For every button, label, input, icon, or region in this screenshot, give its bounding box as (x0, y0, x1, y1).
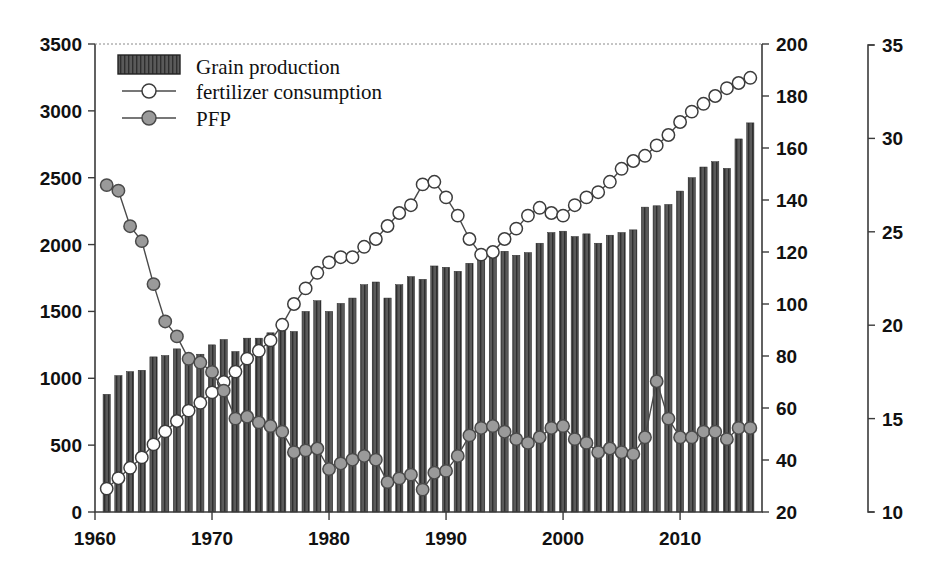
data-point-marker (299, 444, 311, 456)
data-point-marker (346, 251, 358, 263)
data-point-marker (101, 179, 113, 191)
bar (583, 234, 590, 512)
data-point-marker (522, 437, 534, 449)
bar (361, 285, 368, 512)
data-point-marker (440, 191, 452, 203)
bar (325, 311, 332, 512)
bar (150, 357, 157, 512)
data-point-marker (229, 365, 241, 377)
data-point-marker (311, 442, 323, 454)
data-point-marker (709, 90, 721, 102)
data-point-marker (580, 191, 592, 203)
data-point-marker (557, 420, 569, 432)
y-axis-label-left: 500 (50, 435, 82, 456)
y-axis-label-left: 2500 (40, 168, 82, 189)
bar (478, 261, 485, 512)
data-point-marker (299, 282, 311, 294)
data-point-marker (416, 178, 428, 190)
bar (454, 271, 461, 512)
data-point-marker (206, 386, 218, 398)
bar (735, 139, 742, 512)
x-axis-label: 1970 (191, 528, 233, 549)
data-point-marker (674, 116, 686, 128)
bar (115, 376, 122, 512)
data-point-marker (264, 334, 276, 346)
data-point-marker (662, 412, 674, 424)
bar (501, 251, 508, 512)
y-axis-label-right-outer: 10 (882, 502, 903, 523)
y-axis-label-right-outer: 30 (882, 128, 903, 149)
data-point-marker (627, 448, 639, 460)
data-point-marker (416, 483, 428, 495)
x-axis-label: 2010 (659, 528, 701, 549)
data-point-marker (241, 352, 253, 364)
data-point-marker (639, 431, 651, 443)
bar (688, 178, 695, 512)
data-point-marker (592, 186, 604, 198)
bar (185, 356, 192, 512)
data-point-marker (510, 433, 522, 445)
data-point-marker (194, 397, 206, 409)
data-point-marker (288, 446, 300, 458)
data-point-marker (522, 209, 534, 221)
data-point-marker (510, 222, 522, 234)
data-point-marker (463, 233, 475, 245)
bar (372, 282, 379, 512)
y-axis-label-right-outer: 35 (882, 35, 904, 56)
y-axis-label-right-inner: 160 (776, 138, 808, 159)
bar (419, 279, 426, 512)
data-point-marker (533, 431, 545, 443)
data-point-marker (335, 251, 347, 263)
bar (618, 233, 625, 512)
legend-swatch-bar (118, 55, 180, 74)
data-point-marker (533, 202, 545, 214)
data-point-marker (218, 384, 230, 396)
data-point-marker (323, 463, 335, 475)
bar (641, 207, 648, 512)
data-point-marker (732, 77, 744, 89)
data-point-marker (686, 105, 698, 117)
bar (279, 327, 286, 512)
data-point-marker (604, 442, 616, 454)
data-point-marker (697, 425, 709, 437)
data-point-marker (686, 431, 698, 443)
x-axis-label: 1980 (308, 528, 350, 549)
legend-swatch-gray-circle (142, 111, 156, 125)
y-axis-label-left: 1500 (40, 301, 82, 322)
y-axis-label-left: 3500 (40, 34, 82, 55)
bar (536, 243, 543, 512)
data-point-marker (604, 176, 616, 188)
bar (220, 340, 227, 512)
data-point-marker (557, 209, 569, 221)
bar (665, 204, 672, 512)
data-point-marker (569, 199, 581, 211)
y-axis-label-left: 2000 (40, 235, 82, 256)
data-point-marker (276, 425, 288, 437)
bar (723, 168, 730, 512)
bar (548, 233, 555, 512)
legend-label-pfp: PFP (196, 107, 231, 131)
data-point-marker (650, 375, 662, 387)
data-point-marker (346, 454, 358, 466)
legend-label-fertilizer-consumption: fertilizer consumption (196, 80, 383, 104)
data-point-marker (124, 462, 136, 474)
data-point-marker (229, 412, 241, 424)
y-axis-label-right-outer: 20 (882, 315, 903, 336)
y-axis-label-right-inner: 180 (776, 86, 808, 107)
data-point-marker (487, 246, 499, 258)
bar (676, 191, 683, 512)
y-axis-label-left: 0 (71, 502, 82, 523)
y-axis-label-right-inner: 80 (776, 346, 797, 367)
data-point-marker (147, 278, 159, 290)
data-point-marker (721, 82, 733, 94)
data-point-marker (475, 422, 487, 434)
bar (173, 349, 180, 512)
data-point-marker (159, 425, 171, 437)
data-point-marker (452, 450, 464, 462)
data-point-marker (171, 330, 183, 342)
data-point-marker (452, 209, 464, 221)
data-point-marker (569, 433, 581, 445)
data-point-marker (124, 220, 136, 232)
data-point-marker (288, 298, 300, 310)
data-point-marker (674, 431, 686, 443)
